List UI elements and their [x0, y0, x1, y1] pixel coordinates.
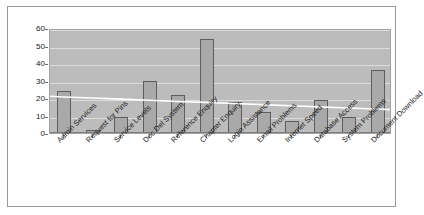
x-axis-labels: Admin ServicesRequest for PinsService Le…: [49, 135, 391, 213]
y-axis: 0102030405060: [16, 23, 48, 140]
y-axis-tick-mark: [45, 99, 48, 100]
y-axis-tick-label: 50: [17, 43, 45, 51]
y-axis-tick-mark: [45, 82, 48, 83]
y-axis-tick-mark: [45, 64, 48, 65]
y-axis-tick-label: 40: [17, 60, 45, 68]
chart-frame: 0102030405060 Admin ServicesRequest for …: [7, 6, 396, 207]
y-axis-tick-label: 10: [17, 113, 45, 121]
y-axis-tick-label: 60: [17, 25, 45, 33]
y-axis-tick-mark: [45, 29, 48, 30]
y-axis-tick-mark: [45, 134, 48, 135]
y-axis-tick-label: 30: [17, 78, 45, 86]
y-axis-tick-mark: [45, 47, 48, 48]
y-axis-tick-label: 0: [17, 130, 45, 138]
y-axis-tick-mark: [45, 117, 48, 118]
y-axis-tick-label: 20: [17, 95, 45, 103]
